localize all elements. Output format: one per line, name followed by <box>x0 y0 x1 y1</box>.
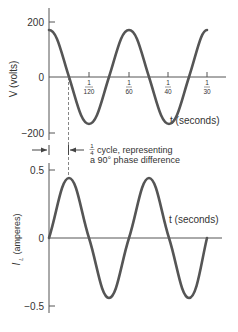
ytick-label-neg200: −200 <box>21 128 44 139</box>
xtick-1-40-den: 40 <box>164 88 172 95</box>
xtick-1-60-den: 60 <box>125 88 133 95</box>
xtick-1-120-num: 1 <box>87 79 91 86</box>
xtick-1-40-num: 1 <box>166 79 170 86</box>
svg-text:L: L <box>18 257 24 260</box>
ytick-label-neg0.5: −0.5 <box>24 301 44 312</box>
annotation-line2: a 90° phase difference <box>90 155 180 165</box>
svg-text:I: I <box>11 262 22 265</box>
current-y-label: I L (amperes) <box>11 213 24 265</box>
arrow-right-icon <box>41 148 47 153</box>
ytick-label-200: 200 <box>27 17 44 28</box>
ytick-label-0.5: 0.5 <box>30 165 44 176</box>
xtick-1-120-den: 120 <box>84 88 95 95</box>
xtick-1-30-den: 30 <box>203 88 211 95</box>
ytick-label-0: 0 <box>38 72 44 83</box>
phase-difference-figure: 200 0 −200 V (volts) 1 120 1 60 1 40 1 3… <box>0 0 238 332</box>
arrow-left-icon <box>70 148 76 153</box>
svg-text:(amperes): (amperes) <box>12 213 22 254</box>
phase-annotation: 1 4 cycle, representing a 90° phase diff… <box>32 77 180 178</box>
voltage-panel: 200 0 −200 V (volts) 1 120 1 60 1 40 1 3… <box>8 8 226 140</box>
current-panel: 0.5 0 −0.5 I L (amperes) t (seconds) <box>11 163 222 313</box>
current-x-label: t (seconds) <box>169 214 218 225</box>
voltage-y-label: V (volts) <box>8 61 19 98</box>
xtick-1-30-num: 1 <box>205 79 209 86</box>
annotation-line1: cycle, representing <box>97 145 173 155</box>
fraction-num: 1 <box>90 143 94 149</box>
ytick-label-0-bottom: 0 <box>38 233 44 244</box>
xtick-1-60-num: 1 <box>127 79 131 86</box>
